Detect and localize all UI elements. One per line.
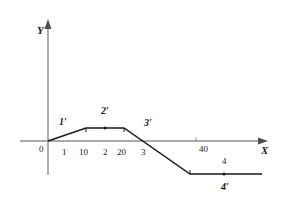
y-axis-label: Y <box>37 25 44 36</box>
y-axis <box>45 19 52 175</box>
x-tick-label-4: 4 <box>222 157 227 166</box>
segment-label-3: 3′ <box>144 118 152 128</box>
y-axis-arrowhead <box>45 19 52 29</box>
graph-figure: Y X 0 1 10 2 20 3 40 4 1′ 2′ 3′ 4′ <box>0 0 282 200</box>
segment-label-2: 2′ <box>101 106 109 116</box>
x-axis-label: X <box>261 145 268 156</box>
x-tick-label-40: 40 <box>199 145 208 154</box>
x-tick-label-10: 10 <box>79 148 88 157</box>
midpoint-marker-segment-2 <box>104 127 107 130</box>
origin-label: 0 <box>39 145 44 154</box>
midpoint-marker-segment-4 <box>223 173 226 176</box>
segment-label-1: 1′ <box>59 117 67 127</box>
segment-label-4: 4′ <box>221 182 229 192</box>
x-tick-label-1: 1 <box>62 148 67 157</box>
x-tick-label-20: 20 <box>117 148 126 157</box>
x-tick-label-2: 2 <box>103 148 108 157</box>
x-tick-label-3: 3 <box>141 148 146 157</box>
